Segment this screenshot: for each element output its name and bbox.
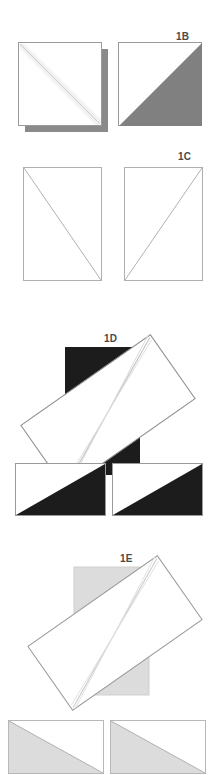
- panel-label-1d: 1D: [104, 333, 117, 344]
- panel-label-1c: 1C: [178, 151, 191, 162]
- rotated-paper-over-gray-square: [26, 565, 204, 705]
- wide-rect-gray-triangle-right: [110, 720, 208, 775]
- panel-1c: 1C: [0, 140, 214, 295]
- tall-rect-diagonal-bl-tr: [124, 167, 204, 282]
- wide-rect-gray-triangle-left: [8, 720, 106, 775]
- diagram-sheet: 1B 1C: [0, 0, 214, 775]
- panel-label-1e: 1E: [120, 553, 133, 564]
- square-half-gray: [118, 42, 204, 128]
- folded-square-with-shadow: [18, 42, 110, 134]
- wide-rect-black-triangle-left: [15, 463, 107, 517]
- rotated-paper-over-black-square: [22, 345, 194, 480]
- panel-1d: 1D: [0, 295, 214, 535]
- wide-rect-black-triangle-right: [112, 463, 204, 517]
- panel-1b: 1B: [0, 0, 214, 140]
- panel-1e: 1E: [0, 535, 214, 775]
- panel-label-1b: 1B: [176, 31, 189, 42]
- tall-rect-diagonal-tl-br: [23, 167, 103, 282]
